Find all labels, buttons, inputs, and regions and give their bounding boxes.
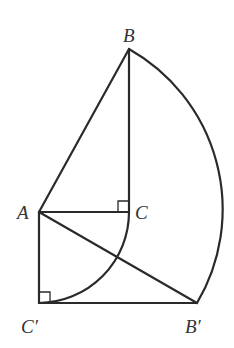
segment-AB [39, 49, 129, 212]
label-C: C [135, 202, 148, 223]
right-angle-marker-C [118, 201, 129, 212]
arc-B-to-B-prime [129, 49, 223, 303]
label-B-prime: B′ [185, 316, 202, 337]
arc-C-to-C-prime [39, 212, 129, 303]
label-A: A [15, 202, 29, 223]
label-C-prime: C′ [21, 316, 39, 337]
label-B: B [123, 25, 135, 46]
geometry-diagram: B A C C′ B′ [0, 0, 234, 348]
